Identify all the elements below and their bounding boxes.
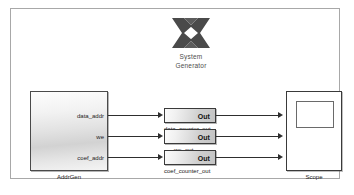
addrgen-port-we: we xyxy=(96,134,104,141)
arrow-into-data-counter-out xyxy=(158,112,163,118)
system-generator-block[interactable]: System Generator xyxy=(151,14,231,70)
gateway-out-label-2: Out xyxy=(198,133,210,140)
wire-data-counter-to-scope xyxy=(216,115,280,116)
xilinx-logo xyxy=(171,14,211,52)
gateway-out-we[interactable]: Out xyxy=(164,129,216,144)
diagram-canvas: System Generator data_addr we coef_addr … xyxy=(0,0,354,195)
scope-screen xyxy=(296,101,334,128)
wire-we xyxy=(108,136,160,137)
wire-data-addr xyxy=(108,115,160,116)
arrow-into-we-out xyxy=(158,133,163,139)
gateway-out-label-1: Out xyxy=(198,112,210,119)
arrow-into-scope-1 xyxy=(278,112,283,118)
system-generator-label-line1: System xyxy=(151,52,231,61)
model-frame: System Generator data_addr we coef_addr … xyxy=(10,8,340,179)
system-generator-label-line2: Generator xyxy=(151,61,231,70)
addrgen-block[interactable]: data_addr we coef_addr xyxy=(30,91,108,171)
signal-label-coef-counter-out: coef_counter_out xyxy=(164,167,210,175)
wire-coef-counter-to-scope xyxy=(216,157,280,158)
wire-coef-addr xyxy=(108,157,160,158)
gateway-out-coef-counter[interactable]: Out xyxy=(164,150,216,165)
arrow-into-scope-3 xyxy=(278,154,283,160)
addrgen-port-coef-addr: coef_addr xyxy=(77,155,104,162)
addrgen-port-data-addr: data_addr xyxy=(77,113,104,120)
arrow-into-scope-2 xyxy=(278,133,283,139)
arrow-into-coef-counter-out xyxy=(158,154,163,160)
gateway-out-data-counter[interactable]: Out xyxy=(164,108,216,123)
addrgen-caption: AddrGen xyxy=(30,173,108,181)
scope-block[interactable] xyxy=(286,91,342,171)
scope-caption: Scope xyxy=(286,173,342,181)
gateway-out-label-3: Out xyxy=(198,154,210,161)
wire-we-to-scope xyxy=(216,136,280,137)
